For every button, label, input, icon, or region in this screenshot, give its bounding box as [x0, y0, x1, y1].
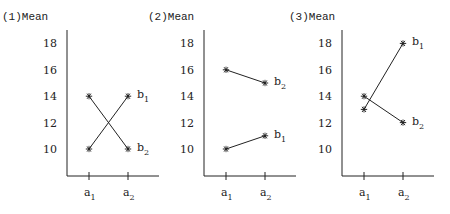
series-label-b1: b1 — [274, 128, 286, 144]
y-tick-label: 10 — [180, 143, 194, 156]
series-label-b2: b2 — [137, 141, 149, 157]
y-tick-label: 14 — [318, 90, 332, 103]
interaction-plots: (1)Mean1012141618a1a2b1b2(2)Mean10121416… — [0, 0, 450, 214]
x-tick-label: a2 — [123, 186, 135, 202]
y-tick-label: 10 — [43, 143, 57, 156]
x-tick-label: a1 — [221, 186, 233, 202]
y-tick-label: 14 — [180, 90, 194, 103]
y-tick-label: 18 — [180, 37, 194, 50]
y-tick-label: 10 — [318, 143, 332, 156]
chart-title: (3)Mean — [289, 11, 335, 23]
x-tick-label: a2 — [260, 186, 272, 202]
series-line-b2 — [226, 70, 265, 83]
series-line-b2 — [364, 96, 403, 122]
series-line-b1 — [226, 136, 265, 149]
y-tick-label: 12 — [180, 117, 194, 130]
series-label-b2: b2 — [274, 75, 286, 91]
y-tick-label: 16 — [180, 64, 194, 77]
series-line-b1 — [364, 43, 403, 109]
chart-panel-3: (3)Mean1012141618a1a2b1b2 — [289, 11, 434, 202]
y-tick-label: 18 — [43, 37, 57, 50]
y-tick-label: 16 — [318, 64, 332, 77]
chart-panel-2: (2)Mean1012141618a1a2b1b2 — [148, 11, 296, 202]
y-tick-label: 18 — [318, 37, 332, 50]
chart-title: (2)Mean — [148, 11, 194, 23]
y-tick-label: 12 — [43, 117, 57, 130]
chart-panel-1: (1)Mean1012141618a1a2b1b2 — [2, 11, 159, 202]
x-tick-label: a1 — [84, 186, 96, 202]
chart-title: (1)Mean — [2, 11, 48, 23]
x-tick-label: a2 — [398, 186, 410, 202]
y-tick-label: 12 — [318, 117, 332, 130]
y-tick-label: 14 — [43, 90, 57, 103]
series-label-b1: b1 — [137, 88, 149, 104]
series-label-b1: b1 — [412, 35, 424, 51]
y-tick-label: 16 — [43, 64, 57, 77]
x-tick-label: a1 — [359, 186, 371, 202]
series-label-b2: b2 — [412, 115, 424, 131]
